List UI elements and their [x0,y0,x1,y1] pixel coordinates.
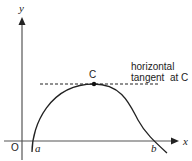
y-axis-arrow-icon [19,17,26,25]
curve [32,84,167,153]
point-b-label: b [151,142,157,154]
annotation-line1: horizontal [131,61,174,72]
point-a-label: a [35,142,41,154]
origin-label: O [11,142,19,153]
curve-diagram: y x O a b C horizontal tangent at C [0,0,192,161]
y-axis-label: y [18,2,24,14]
annotation-line2: tangent at C [131,72,188,83]
point-c [92,82,96,86]
x-axis-label: x [182,135,188,147]
point-c-label: C [89,69,96,80]
x-axis-arrow-icon [171,138,179,145]
y-axis [19,17,26,160]
